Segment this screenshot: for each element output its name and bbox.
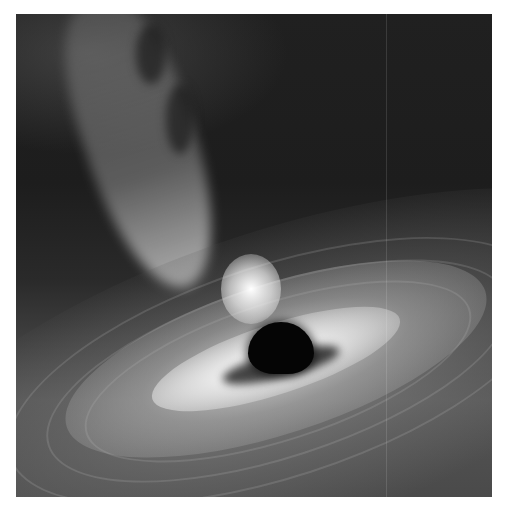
jet-shadow [166,84,194,154]
jet-shadow [136,24,166,84]
black-hole-illustration [16,14,492,497]
jet-base-glow [221,254,281,324]
scan-seam [386,14,387,497]
